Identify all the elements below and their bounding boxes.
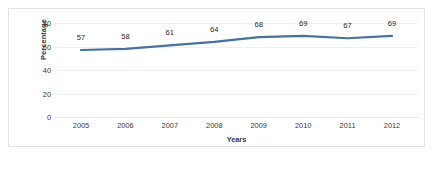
data-label: 69 (388, 19, 396, 28)
x-tick-label: 2006 (117, 121, 133, 130)
x-tick-label: 2005 (73, 121, 89, 130)
x-tick-label: 2008 (206, 121, 222, 130)
x-tick-label: 2011 (340, 121, 356, 130)
chart-screenshot: Percentage 020406080 5758616468696769 20… (0, 0, 438, 169)
x-tick-label: 2007 (162, 121, 178, 130)
y-tick-label: 80 (29, 19, 51, 28)
y-tick-label: 0 (29, 113, 51, 122)
line-series (55, 23, 418, 117)
y-axis-tick-labels: 020406080 (29, 23, 51, 117)
x-tick-label: 2010 (295, 121, 311, 130)
x-tick-label: 2012 (384, 121, 400, 130)
data-label: 57 (77, 33, 85, 42)
x-axis-title: Years (55, 135, 418, 144)
data-label: 68 (254, 20, 262, 29)
data-label: 67 (343, 21, 351, 30)
gridline-0 (55, 117, 418, 118)
data-label: 61 (166, 28, 174, 37)
data-label: 58 (121, 32, 129, 41)
x-axis-tick-labels: 20052006200720082009201020112012 (55, 121, 418, 135)
data-label: 64 (210, 25, 218, 34)
data-label: 69 (299, 19, 307, 28)
plot-area: 5758616468696769 (55, 23, 418, 117)
y-tick-label: 20 (29, 89, 51, 98)
x-tick-label: 2009 (250, 121, 266, 130)
y-tick-label: 40 (29, 66, 51, 75)
y-tick-label: 60 (29, 42, 51, 51)
chart-frame: Percentage 020406080 5758616468696769 20… (8, 8, 425, 147)
